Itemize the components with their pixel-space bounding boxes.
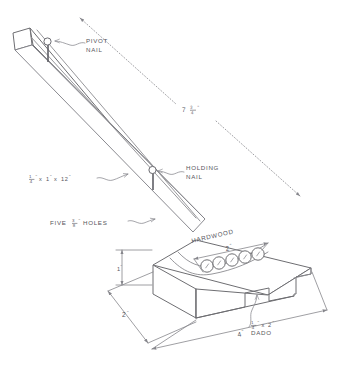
arm-stock-inch-mark-2: "	[50, 174, 52, 179]
block-height-ext-top	[108, 272, 153, 291]
arm-span-whole: 7	[182, 106, 186, 113]
holes-note-leader	[128, 219, 155, 223]
holding-nail-leader	[158, 171, 184, 174]
holding-nail-label-line1: HOLDING	[186, 164, 219, 171]
holding-nail-head	[149, 166, 156, 173]
dado-frac-num: 1	[251, 320, 254, 325]
dado-width: 2	[268, 322, 272, 328]
arm-stock-length: 12	[61, 176, 69, 182]
arm-span-frac-num: 3	[190, 105, 193, 110]
block-width-inch: "	[241, 329, 244, 334]
arm-span-line-upper	[80, 18, 176, 104]
block-height-value: 2	[122, 311, 126, 318]
dado-label: DADO	[251, 329, 272, 336]
arm-stock-times-2: x	[54, 176, 58, 182]
technical-drawing: PIVOT NAIL HOLDING NAIL 7 3 4 " 1 4 " x …	[0, 0, 358, 392]
hardwood-label: HARDWOOD	[191, 227, 235, 244]
hole-row-dim-inch: "	[229, 243, 232, 248]
arm-stock-thick-den: 4	[30, 179, 33, 184]
pivot-nail-label-line1: PIVOT	[86, 37, 108, 44]
arm-side-face	[15, 45, 205, 232]
block-height-dim-line	[108, 291, 148, 343]
arm-top-face	[30, 28, 205, 219]
arm-stock-leader	[97, 174, 128, 180]
arm-stock-inch-mark-1: "	[35, 174, 37, 179]
holding-nail-label-line2: NAIL	[186, 173, 203, 180]
arm-span-inch-mark: "	[197, 105, 199, 110]
pivot-nail-head	[44, 38, 51, 45]
hardwood-label-text: HARDWOOD	[191, 227, 235, 244]
dado-note-text: 1 4 " x 2 " DADO	[251, 320, 275, 336]
holes-note-suffix: HOLES	[83, 219, 107, 226]
block-height-inch: "	[127, 310, 129, 315]
arm-stock-thick-num: 1	[29, 174, 32, 179]
drawing-canvas: PIVOT NAIL HOLDING NAIL 7 3 4 " 1 4 " x …	[0, 0, 358, 392]
arm-stock-times-1: x	[39, 176, 43, 182]
block-width-dim-text: 4 "	[237, 329, 246, 338]
dado-width-inch: "	[272, 320, 274, 325]
dado-inch-mark: "	[257, 320, 259, 325]
arm-stock-text: 1 4 " x 1 " x 12 "	[29, 174, 71, 184]
arm-far-edge	[37, 30, 200, 221]
arm-stock-inch-mark-3: "	[69, 174, 71, 179]
pivot-nail-leader	[55, 41, 85, 45]
holes-note-frac-den: 8	[73, 223, 76, 228]
holes-note-frac-num: 3	[72, 218, 75, 223]
arm-span-frac-den: 4	[191, 110, 194, 115]
pivot-nail-label-line2: NAIL	[86, 46, 103, 53]
side-height-inch: "	[120, 264, 122, 269]
block-width-ext-left	[152, 320, 196, 349]
arm-span-line-lower	[216, 121, 300, 196]
pivot-arm-assembly	[13, 28, 205, 232]
dado-times: x	[262, 322, 266, 328]
block-width-ext-right	[312, 272, 327, 310]
arm-top-crease	[31, 37, 196, 218]
hardwood-block	[153, 240, 311, 318]
holes-note-inch-mark: "	[78, 218, 80, 223]
holes-note-prefix: FIVE	[50, 219, 67, 226]
holes-note-text: FIVE 3 8 " HOLES	[50, 218, 107, 228]
arm-span-text: 7 3 4 "	[182, 105, 200, 116]
